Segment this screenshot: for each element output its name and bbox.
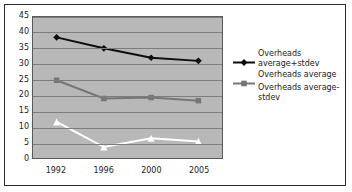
triangle-icon — [233, 86, 255, 95]
x-axis: 1992199620002005 — [32, 165, 223, 179]
x-axis-tick-label: 2000 — [131, 166, 171, 175]
y-axis-tick-label: 35 — [7, 44, 29, 52]
gridline — [33, 112, 222, 113]
square-marker-icon — [196, 98, 202, 104]
series-line — [57, 80, 199, 100]
legend-entry: Overheads average+stdev — [233, 49, 345, 68]
gridline — [33, 96, 222, 97]
y-axis-tick-label: 45 — [7, 12, 29, 20]
chart-frame: 051015202530354045 1992199620002005 Over… — [4, 4, 346, 186]
legend-entry: Overheads average — [233, 70, 345, 81]
legend-label: Overheads average — [258, 70, 345, 80]
y-axis-tick-label: 10 — [7, 123, 29, 131]
y-axis-tick-label: 0 — [7, 155, 29, 163]
y-axis-tick-label: 15 — [7, 107, 29, 115]
legend-label: Overheads average+stdev — [258, 49, 345, 68]
y-axis-tick-label: 40 — [7, 28, 29, 36]
gridline — [33, 144, 222, 145]
series-1 — [54, 78, 201, 104]
plot-area — [32, 16, 223, 159]
y-axis-tick-label: 20 — [7, 91, 29, 99]
x-axis-tick-label: 1996 — [84, 166, 124, 175]
y-axis-tick-label: 30 — [7, 60, 29, 68]
triangle-marker-icon — [53, 118, 60, 125]
gridline — [33, 48, 222, 49]
y-axis: 051015202530354045 — [5, 16, 29, 159]
diamond-marker-icon — [241, 59, 248, 66]
gridline — [33, 32, 222, 33]
chart-legend: Overheads average+stdevOverheads average… — [233, 49, 345, 104]
series-2 — [53, 118, 202, 150]
square-icon — [233, 73, 255, 82]
y-axis-tick-label: 25 — [7, 76, 29, 84]
gridline — [33, 64, 222, 65]
diamond-icon — [233, 52, 255, 61]
x-axis-tick-label: 1992 — [36, 166, 76, 175]
gridline — [33, 128, 222, 129]
gridline — [33, 80, 222, 81]
gridline — [33, 17, 222, 18]
diamond-marker-icon — [53, 34, 60, 41]
series-layer — [33, 17, 222, 158]
legend-label: Overheads average-stdev — [258, 83, 345, 102]
x-axis-tick-label: 2005 — [179, 166, 219, 175]
y-axis-tick-label: 5 — [7, 139, 29, 147]
diamond-marker-icon — [148, 54, 155, 61]
legend-entry: Overheads average-stdev — [233, 83, 345, 102]
